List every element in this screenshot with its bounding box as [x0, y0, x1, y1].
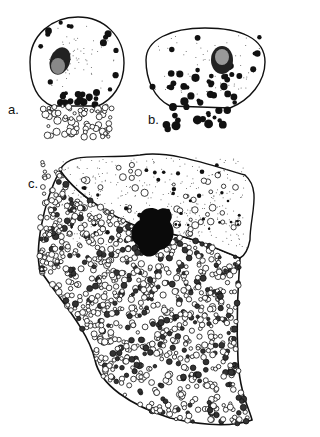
stipple-dot	[239, 218, 240, 219]
granule	[243, 418, 249, 424]
stipple-dot	[213, 244, 214, 245]
granule	[214, 313, 218, 317]
granule	[153, 171, 157, 175]
stipple-dot	[198, 187, 199, 188]
granule	[237, 417, 243, 423]
granule	[224, 269, 227, 272]
stipple-dot	[101, 47, 102, 48]
granule	[94, 348, 99, 353]
granule	[155, 273, 161, 279]
stipple-dot	[184, 231, 185, 232]
stipple-dot	[62, 41, 63, 42]
granule	[230, 418, 234, 422]
stipple-dot	[97, 198, 98, 199]
vesicle	[141, 189, 148, 196]
stipple-dot	[204, 204, 205, 205]
stipple-dot	[153, 163, 154, 164]
vesicle	[172, 183, 175, 186]
stipple-dot	[68, 195, 69, 196]
granule	[73, 252, 77, 256]
granule	[37, 253, 43, 259]
stipple-dot	[83, 196, 84, 197]
stipple-dot	[171, 206, 172, 207]
stipple-dot	[49, 59, 50, 60]
stipple-dot	[172, 214, 173, 215]
stipple-dot	[66, 36, 67, 37]
granule	[169, 47, 174, 52]
granule	[177, 241, 183, 247]
granule	[84, 318, 89, 323]
granule	[215, 163, 219, 167]
granule	[100, 286, 104, 290]
granule	[89, 295, 95, 301]
granule	[91, 331, 97, 337]
granule	[232, 326, 238, 332]
granule	[190, 365, 196, 371]
stipple-dot	[151, 197, 152, 198]
granule	[228, 369, 234, 375]
granule	[84, 231, 89, 236]
granule	[120, 365, 125, 370]
granule	[236, 73, 242, 79]
stipple-dot	[188, 74, 189, 75]
stipple-dot	[176, 42, 177, 43]
stipple-dot	[161, 199, 162, 200]
stipple-dot	[91, 211, 92, 212]
stipple-dot	[248, 72, 249, 73]
granule	[134, 268, 140, 274]
stipple-dot	[69, 73, 70, 74]
stipple-dot	[129, 220, 130, 221]
stipple-dot	[149, 205, 150, 206]
stipple-dot	[186, 223, 187, 224]
granule	[112, 337, 117, 342]
granule	[111, 368, 115, 372]
granule	[108, 87, 112, 91]
granule	[226, 313, 231, 318]
vesicle	[98, 185, 103, 190]
stipple-dot	[241, 171, 242, 172]
vesicle	[38, 215, 43, 220]
stipple-dot	[77, 166, 78, 167]
granule	[214, 367, 218, 371]
cell-b-outline	[146, 28, 265, 108]
granule	[123, 358, 129, 364]
stipple-dot	[152, 159, 153, 160]
vesicle	[81, 134, 87, 140]
stipple-dot	[165, 182, 166, 183]
stipple-dot	[197, 94, 198, 95]
granule	[189, 328, 194, 333]
granule	[80, 310, 86, 316]
stipple-dot	[198, 232, 199, 233]
stipple-dot	[190, 213, 191, 214]
stipple-dot	[69, 196, 70, 197]
granule	[100, 39, 107, 46]
stipple-dot	[85, 59, 86, 60]
granule	[151, 303, 156, 308]
granule	[105, 230, 110, 235]
stipple-dot	[201, 231, 202, 232]
granule	[121, 219, 125, 223]
granule	[208, 290, 213, 295]
granule	[125, 261, 129, 265]
granule	[60, 191, 65, 196]
granule	[237, 223, 239, 225]
granule	[224, 77, 230, 83]
stipple-dot	[177, 217, 178, 218]
vesicle	[52, 266, 56, 270]
stipple-dot	[228, 244, 229, 245]
granule	[116, 249, 120, 253]
vesicle	[78, 108, 82, 112]
granule	[207, 306, 213, 312]
stipple-dot	[232, 222, 233, 223]
stipple-dot	[225, 208, 226, 209]
granule	[227, 200, 230, 203]
granule	[186, 297, 191, 302]
stipple-dot	[200, 218, 201, 219]
granule	[138, 300, 143, 305]
granule	[106, 270, 109, 273]
stipple-dot	[121, 191, 122, 192]
stipple-dot	[217, 218, 218, 219]
granule	[99, 323, 104, 328]
stipple-dot	[181, 90, 182, 91]
stipple-dot	[67, 70, 68, 71]
